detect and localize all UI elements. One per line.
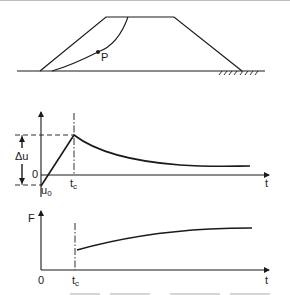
zero-label: 0 bbox=[32, 168, 38, 180]
figure-canvas: P Δu 0 u0 tc t F 0 tc bbox=[0, 0, 290, 295]
embankment-trapezoid bbox=[40, 17, 242, 71]
factor-of-safety-chart: F 0 tc t bbox=[28, 211, 269, 288]
x-axis-label: t bbox=[265, 177, 268, 189]
u0-label: u0 bbox=[41, 184, 52, 198]
f-origin-label: 0 bbox=[38, 274, 44, 286]
tc-label: tc bbox=[70, 177, 77, 191]
f-tc-label: tc bbox=[72, 274, 79, 288]
f-axis-label: F bbox=[28, 212, 35, 224]
point-p-marker bbox=[96, 50, 100, 54]
embankment-diagram: P bbox=[17, 17, 265, 75]
point-p-label: P bbox=[101, 51, 108, 63]
factor-of-safety-curve bbox=[77, 228, 252, 250]
pore-pressure-chart: Δu 0 u0 tc t bbox=[14, 112, 269, 198]
slip-circle bbox=[52, 17, 128, 71]
delta-u-label: Δu bbox=[15, 150, 28, 162]
f-x-axis-label: t bbox=[265, 274, 268, 286]
